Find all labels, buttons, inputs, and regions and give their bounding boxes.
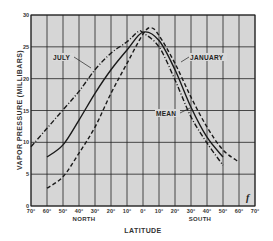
vapor-pressure-chart: 051015202530 70°60°50°40°30°20°10°0°10°2… [0, 0, 273, 241]
x-tick-label: 30° [91, 208, 99, 214]
y-axis-title: VAPOR PRESSURE (MILLIBARS) [16, 50, 24, 170]
x-tick-label: 50° [59, 208, 67, 214]
x-tick-label: 40° [203, 208, 211, 214]
y-axis-ticks: 051015202530 [23, 12, 29, 209]
x-tick-label: 60° [235, 208, 243, 214]
y-tick-label: 15 [23, 108, 29, 114]
north-label: NORTH [73, 216, 96, 222]
july-label: JULY [53, 54, 71, 61]
south-label: SOUTH [189, 216, 212, 222]
x-tick-label: 60° [43, 208, 51, 214]
y-tick-label: 30 [23, 12, 29, 18]
x-tick-label: 20° [107, 208, 115, 214]
x-axis-title: LATITUDE [124, 227, 161, 234]
x-tick-label: 20° [171, 208, 179, 214]
x-tick-label: 70° [27, 208, 35, 214]
x-tick-label: 40° [75, 208, 83, 214]
x-tick-label: 50° [219, 208, 227, 214]
x-tick-label: 70° [251, 208, 259, 214]
y-tick-label: 20 [23, 76, 29, 82]
y-tick-label: 5 [26, 171, 29, 177]
mean-label: MEAN [156, 110, 176, 117]
y-tick-label: 25 [23, 44, 29, 50]
january-label: JANUARY [190, 54, 224, 61]
x-tick-label: 10° [123, 208, 131, 214]
x-tick-label: 0° [140, 208, 145, 214]
x-tick-label: 30° [187, 208, 195, 214]
x-axis-ticks: 70°60°50°40°30°20°10°0°10°20°30°40°50°60… [27, 208, 259, 214]
x-tick-label: 10° [155, 208, 163, 214]
y-tick-label: 10 [23, 139, 29, 145]
